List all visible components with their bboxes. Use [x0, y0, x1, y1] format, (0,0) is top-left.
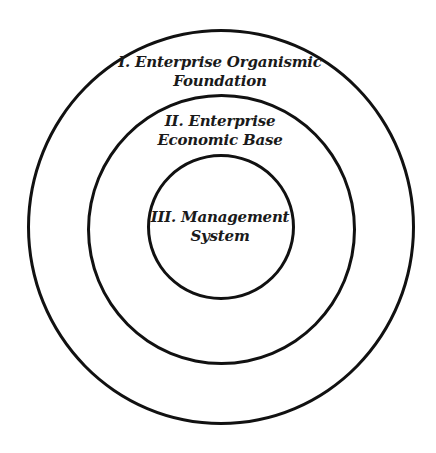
- inner-ring-label: III. Management System: [2, 208, 436, 246]
- outer-ring-label-line-1: I. Enterprise Organismic: [2, 53, 436, 72]
- outer-ring-label: I. Enterprise Organismic Foundation: [2, 53, 436, 91]
- concentric-diagram: I. Enterprise Organismic Foundation II. …: [0, 0, 436, 453]
- inner-ring-label-line-2: System: [2, 227, 436, 246]
- middle-ring-label-line-1: II. Enterprise: [2, 112, 436, 131]
- inner-ring-label-line-1: III. Management: [2, 208, 436, 227]
- middle-ring-label-line-2: Economic Base: [2, 131, 436, 150]
- middle-ring-label: II. Enterprise Economic Base: [2, 112, 436, 150]
- outer-ring-label-line-2: Foundation: [2, 72, 436, 91]
